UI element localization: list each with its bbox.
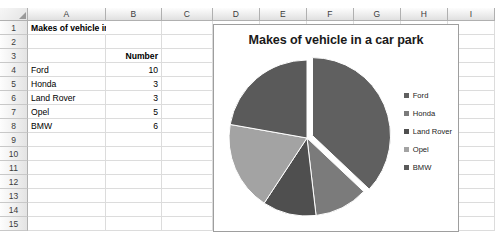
cell-B9[interactable] bbox=[106, 133, 162, 147]
legend-item[interactable]: Opel bbox=[404, 145, 452, 154]
legend-swatch-icon bbox=[404, 129, 409, 134]
cell-A5[interactable]: Honda bbox=[28, 77, 106, 91]
cell-A12[interactable] bbox=[28, 175, 106, 189]
pie-chart-object[interactable]: Makes of vehicle in a car park FordHonda… bbox=[213, 24, 459, 232]
row-header-gutter: 1 2 3 4 5 6 7 8 9 10 11 12 13 14 15 bbox=[0, 21, 28, 231]
cell-A13[interactable] bbox=[28, 189, 106, 203]
cell-C5[interactable] bbox=[162, 77, 213, 91]
legend-swatch-icon bbox=[404, 93, 409, 98]
row-header-5[interactable]: 5 bbox=[0, 77, 28, 91]
cell-B14[interactable] bbox=[106, 203, 162, 217]
row-header-4[interactable]: 4 bbox=[0, 63, 28, 77]
legend-swatch-icon bbox=[404, 147, 409, 152]
legend-swatch-icon bbox=[404, 111, 409, 116]
legend-item[interactable]: BMW bbox=[404, 163, 452, 172]
row-header-2[interactable]: 2 bbox=[0, 35, 28, 49]
row-header-15[interactable]: 15 bbox=[0, 217, 28, 231]
column-header-h[interactable]: H bbox=[401, 8, 448, 21]
cell-C11[interactable] bbox=[162, 161, 213, 175]
legend-label: Land Rover bbox=[413, 127, 452, 136]
cell-B1[interactable] bbox=[106, 21, 162, 35]
cell-C14[interactable] bbox=[162, 203, 213, 217]
column-header-d[interactable]: D bbox=[213, 8, 260, 21]
cell-B5[interactable]: 3 bbox=[106, 77, 162, 91]
row-header-8[interactable]: 8 bbox=[0, 119, 28, 133]
row-header-3[interactable]: 3 bbox=[0, 49, 28, 63]
cell-C15[interactable] bbox=[162, 217, 213, 231]
cell-B13[interactable] bbox=[106, 189, 162, 203]
cell-B12[interactable] bbox=[106, 175, 162, 189]
row-header-10[interactable]: 10 bbox=[0, 147, 28, 161]
pie-plot-area bbox=[222, 53, 392, 223]
legend-label: Honda bbox=[413, 109, 435, 118]
cell-B7[interactable]: 5 bbox=[106, 105, 162, 119]
column-header-row: A B C D E F G H I bbox=[0, 8, 495, 21]
cell-C10[interactable] bbox=[162, 147, 213, 161]
column-header-f[interactable]: F bbox=[307, 8, 354, 21]
cell-C2[interactable] bbox=[162, 35, 213, 49]
row-header-9[interactable]: 9 bbox=[0, 133, 28, 147]
row-header-14[interactable]: 14 bbox=[0, 203, 28, 217]
cell-A7[interactable]: Opel bbox=[28, 105, 106, 119]
cell-C7[interactable] bbox=[162, 105, 213, 119]
row-header-13[interactable]: 13 bbox=[0, 189, 28, 203]
chart-legend: FordHondaLand RoverOpelBMW bbox=[404, 91, 452, 172]
row-header-6[interactable]: 6 bbox=[0, 91, 28, 105]
cell-B11[interactable] bbox=[106, 161, 162, 175]
cell-C1[interactable] bbox=[162, 21, 213, 35]
legend-item[interactable]: Honda bbox=[404, 109, 452, 118]
row-header-12[interactable]: 12 bbox=[0, 175, 28, 189]
column-header-g[interactable]: G bbox=[354, 8, 401, 21]
cell-A9[interactable] bbox=[28, 133, 106, 147]
cell-A15[interactable] bbox=[28, 217, 106, 231]
cell-A3[interactable] bbox=[28, 49, 106, 63]
cell-B2[interactable] bbox=[106, 35, 162, 49]
cell-C3[interactable] bbox=[162, 49, 213, 63]
cell-C9[interactable] bbox=[162, 133, 213, 147]
column-header-c[interactable]: C bbox=[162, 8, 213, 21]
cell-C4[interactable] bbox=[162, 63, 213, 77]
column-header-b[interactable]: B bbox=[106, 8, 162, 21]
column-header-e[interactable]: E bbox=[260, 8, 307, 21]
cell-C13[interactable] bbox=[162, 189, 213, 203]
cell-A11[interactable] bbox=[28, 161, 106, 175]
cell-A10[interactable] bbox=[28, 147, 106, 161]
legend-label: Opel bbox=[413, 145, 429, 154]
cell-B3[interactable]: Number bbox=[106, 49, 162, 63]
cell-A2[interactable] bbox=[28, 35, 106, 49]
legend-item[interactable]: Ford bbox=[404, 91, 452, 100]
cell-A6[interactable]: Land Rover bbox=[28, 91, 106, 105]
legend-item[interactable]: Land Rover bbox=[404, 127, 452, 136]
select-all-corner[interactable] bbox=[0, 8, 28, 21]
chart-title: Makes of vehicle in a car park bbox=[214, 33, 458, 47]
cell-A1[interactable]: Makes of vehicle in a car park bbox=[28, 21, 106, 35]
row-header-11[interactable]: 11 bbox=[0, 161, 28, 175]
pie-svg bbox=[222, 53, 392, 223]
cell-A4[interactable]: Ford bbox=[28, 63, 106, 77]
cell-A8[interactable]: BMW bbox=[28, 119, 106, 133]
cell-C8[interactable] bbox=[162, 119, 213, 133]
cell-B10[interactable] bbox=[106, 147, 162, 161]
column-header-a[interactable]: A bbox=[28, 8, 106, 21]
cell-C12[interactable] bbox=[162, 175, 213, 189]
legend-label: BMW bbox=[413, 163, 432, 172]
pie-slice[interactable] bbox=[230, 60, 307, 138]
legend-swatch-icon bbox=[404, 165, 409, 170]
row-header-1[interactable]: 1 bbox=[0, 21, 28, 35]
cell-B15[interactable] bbox=[106, 217, 162, 231]
row-header-7[interactable]: 7 bbox=[0, 105, 28, 119]
cell-B6[interactable]: 3 bbox=[106, 91, 162, 105]
cell-C6[interactable] bbox=[162, 91, 213, 105]
cell-B8[interactable]: 6 bbox=[106, 119, 162, 133]
cell-A14[interactable] bbox=[28, 203, 106, 217]
cell-B4[interactable]: 10 bbox=[106, 63, 162, 77]
legend-label: Ford bbox=[413, 91, 429, 100]
column-header-i[interactable]: I bbox=[448, 8, 495, 21]
